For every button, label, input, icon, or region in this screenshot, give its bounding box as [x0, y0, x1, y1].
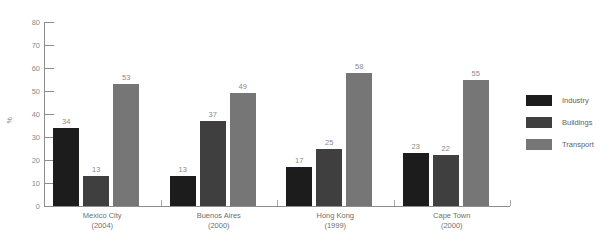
bar-group: 172558: [286, 22, 372, 206]
legend-label: Industry: [562, 95, 589, 106]
legend-label: Transport: [562, 139, 594, 150]
bar-transport: [230, 93, 256, 206]
bar-value-label: 22: [431, 145, 461, 153]
bar-value-label: 37: [198, 111, 228, 119]
bar-industry: [403, 153, 429, 206]
bar-value-label: 58: [344, 63, 374, 71]
y-axis-title: %: [6, 117, 13, 123]
x-axis-line: [44, 206, 510, 207]
group-separator-tick: [161, 200, 162, 206]
category-year: (2004): [42, 221, 162, 231]
bar-industry: [53, 128, 79, 206]
bar-transport: [463, 80, 489, 207]
bar-buildings: [433, 155, 459, 206]
bar-value-label: 13: [81, 166, 111, 174]
bar-industry: [170, 176, 196, 206]
bar-industry: [286, 167, 312, 206]
x-axis-category-label: Mexico City(2004): [42, 211, 162, 231]
legend-swatch-buildings: [526, 117, 552, 128]
bar-value-label: 55: [461, 70, 491, 78]
category-name: Buenos Aires: [197, 211, 241, 220]
category-year: (2000): [159, 221, 279, 231]
y-axis-tick-label: 20: [22, 157, 40, 165]
x-axis-category-label: Cape Town(2000): [392, 211, 512, 231]
plot-area: 341353133749172558232255: [44, 22, 510, 207]
bar-buildings: [83, 176, 109, 206]
bar-buildings: [200, 121, 226, 206]
legend-label: Buildings: [562, 117, 592, 128]
x-axis-category-label: Buenos Aires(2000): [159, 211, 279, 231]
chart-title: FIGURE 4.1: ENERGY CONSUMPTION IN SELECT…: [6, 0, 313, 2]
y-axis-tick-label: 70: [22, 42, 40, 50]
y-axis-tick-labels: 01020304050607080: [18, 22, 40, 207]
legend-swatch-transport: [526, 139, 552, 150]
y-axis-tick-label: 40: [22, 111, 40, 119]
bar-value-label: 53: [111, 74, 141, 82]
bar-value-label: 17: [284, 157, 314, 165]
y-axis-tick-label: 0: [22, 203, 40, 211]
group-separator-tick: [394, 200, 395, 206]
bar-buildings: [316, 149, 342, 207]
bar-group: 341353: [53, 22, 139, 206]
y-axis-tick: [45, 206, 54, 207]
group-separator-tick: [277, 200, 278, 206]
bar-transport: [113, 84, 139, 206]
y-axis-tick-label: 10: [22, 180, 40, 188]
bar-value-label: 23: [401, 143, 431, 151]
category-name: Mexico City: [83, 211, 122, 220]
y-axis-tick-label: 30: [22, 134, 40, 142]
category-name: Hong Kong: [316, 211, 354, 220]
group-separator-tick: [510, 200, 511, 206]
bar-transport: [346, 73, 372, 206]
bar-group: 232255: [403, 22, 489, 206]
bar-value-label: 13: [168, 166, 198, 174]
category-year: (2000): [392, 221, 512, 231]
y-axis-tick-label: 80: [22, 19, 40, 27]
x-axis-category-label: Hong Kong(1999): [275, 211, 395, 231]
bar-value-label: 49: [228, 83, 258, 91]
category-year: (1999): [275, 221, 395, 231]
category-name: Cape Town: [433, 211, 470, 220]
legend-swatch-industry: [526, 95, 552, 106]
bar-value-label: 34: [51, 118, 81, 126]
bar-value-label: 25: [314, 139, 344, 147]
bar-group: 133749: [170, 22, 256, 206]
y-axis-tick-label: 50: [22, 88, 40, 96]
y-axis-tick-label: 60: [22, 65, 40, 73]
